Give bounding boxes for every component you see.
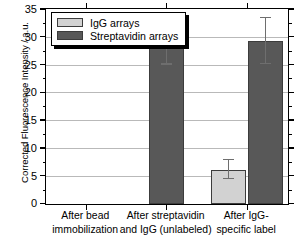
x-axis-tick xyxy=(166,3,167,9)
x-axis-category-label-line: After IgG- xyxy=(194,209,298,223)
error-bar-cap-bottom xyxy=(223,178,234,179)
legend-swatch-igg-arrays xyxy=(57,18,83,27)
y-axis-minor-tick xyxy=(43,190,47,191)
y-axis-tick xyxy=(288,175,294,176)
legend-swatch-streptavidin-arrays xyxy=(57,31,83,40)
y-axis-tick-label: 5 xyxy=(31,170,37,182)
y-axis-minor-tick xyxy=(43,162,47,163)
legend-label-igg-arrays: IgG arrays xyxy=(90,17,139,29)
y-axis-minor-tick xyxy=(288,51,292,52)
y-axis-tick xyxy=(288,119,294,120)
x-axis-category-label-line: specific label xyxy=(194,223,298,237)
bar-chart-figure: Corrected Fluorescence Intensity / a.u. … xyxy=(0,0,307,241)
y-axis-minor-tick xyxy=(288,78,292,79)
y-axis-tick xyxy=(40,175,46,176)
y-axis-tick xyxy=(40,8,46,9)
y-axis-tick xyxy=(40,64,46,65)
y-axis-minor-tick xyxy=(288,134,292,135)
y-axis-minor-tick xyxy=(43,78,47,79)
y-axis-tick-label: 35 xyxy=(25,3,37,15)
y-axis-minor-tick xyxy=(43,134,47,135)
bar xyxy=(248,41,283,204)
y-axis-tick xyxy=(288,64,294,65)
legend-label-streptavidin-arrays: Streptavidin arrays xyxy=(90,30,178,42)
y-axis-tick-label: 10 xyxy=(25,142,37,154)
y-axis-tick-label: 30 xyxy=(25,31,37,43)
error-bar-cap-top xyxy=(223,159,234,160)
y-axis-tick-label: 20 xyxy=(25,86,37,98)
legend-item-igg-arrays: IgG arrays xyxy=(57,16,178,29)
y-axis-minor-tick xyxy=(288,190,292,191)
y-axis-minor-tick xyxy=(43,106,47,107)
y-axis-tick xyxy=(288,36,294,37)
y-axis-tick xyxy=(40,147,46,148)
y-axis-tick xyxy=(40,119,46,120)
y-axis-tick xyxy=(40,203,46,204)
y-axis-tick xyxy=(288,92,294,93)
error-bar-stem xyxy=(228,159,229,179)
y-axis-tick xyxy=(288,203,294,204)
chart-legend: IgG arrays Streptavidin arrays xyxy=(51,12,186,46)
x-axis-tick xyxy=(247,3,248,9)
y-axis-tick-label: 0 xyxy=(31,197,37,209)
y-axis-minor-tick xyxy=(288,23,292,24)
y-axis-tick xyxy=(288,147,294,148)
y-axis-tick xyxy=(40,92,46,93)
y-axis-minor-tick xyxy=(43,51,47,52)
y-axis-tick-label: 15 xyxy=(25,114,37,126)
error-bar-cap-bottom xyxy=(161,63,172,64)
error-bar-stem xyxy=(265,17,266,64)
error-bar-cap-top xyxy=(260,17,271,18)
error-bar xyxy=(211,159,246,179)
x-axis-category-label: After IgG-specific label xyxy=(194,209,298,237)
x-axis-category-labels: After beadimmobilizationAfter streptavid… xyxy=(45,209,289,241)
legend-item-streptavidin-arrays: Streptavidin arrays xyxy=(57,29,178,42)
y-axis-minor-tick xyxy=(43,23,47,24)
x-axis-tick xyxy=(86,3,87,9)
y-axis-tick xyxy=(288,8,294,9)
y-axis-minor-tick xyxy=(288,162,292,163)
y-axis-tick-label: 25 xyxy=(25,59,37,71)
y-axis-minor-tick xyxy=(288,106,292,107)
bar xyxy=(149,42,184,204)
error-bar xyxy=(248,17,283,64)
y-axis-tick xyxy=(40,36,46,37)
error-bar-cap-bottom xyxy=(260,63,271,64)
